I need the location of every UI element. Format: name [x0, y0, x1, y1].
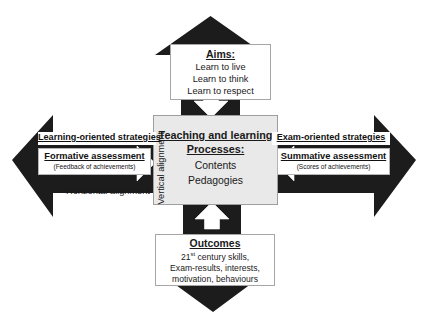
learning-oriented-strategies-label: Learning-oriented strategies	[38, 132, 156, 145]
vertical-alignment-label: Vertical alignment	[156, 132, 166, 205]
outcomes-heading: Outcomes	[156, 237, 274, 250]
center-heading-line-1: Teaching and learning	[154, 129, 277, 143]
vertical-alignment-wrap: Vertical alignment	[156, 32, 170, 132]
formative-assessment-label: Formative assessment	[39, 151, 150, 163]
aims-heading: Aims:	[171, 48, 270, 61]
aims-item-3: Learn to respect	[171, 86, 270, 98]
outcomes-item-1-suffix: century skills,	[195, 252, 249, 262]
aims-box: Aims: Learn to live Learn to think Learn…	[170, 44, 271, 100]
outcomes-item-2: Exam-results, interests,	[156, 263, 274, 274]
horizontal-alignment-label: Horizontal alignment	[52, 186, 164, 196]
formative-assessment-note: (Feedback of achievements)	[39, 163, 150, 171]
center-item-contents: Contents	[154, 159, 277, 172]
aims-item-1: Learn to live	[171, 62, 270, 74]
summative-assessment-plate: Summative assessment (Scores of achievem…	[277, 148, 390, 175]
aims-item-2: Learn to think	[171, 74, 270, 86]
diagram-canvas: Aims: Learn to live Learn to think Learn…	[0, 0, 427, 324]
exam-oriented-strategies-label: Exam-oriented strategies	[272, 132, 390, 145]
outcomes-item-1: 21st century skills,	[156, 251, 274, 263]
outcomes-box: Outcomes 21st century skills, Exam-resul…	[155, 234, 275, 286]
summative-assessment-note: (Scores of achievements)	[278, 163, 389, 171]
teaching-learning-processes-box: Teaching and learning Processes: Content…	[153, 115, 278, 205]
center-heading-line-2: Processes:	[154, 143, 277, 157]
outcomes-item-3: motivation, behaviours	[156, 274, 274, 285]
center-item-pedagogies: Pedagogies	[154, 174, 277, 187]
summative-assessment-label: Summative assessment	[278, 151, 389, 163]
formative-assessment-plate: Formative assessment (Feedback of achiev…	[38, 148, 151, 175]
